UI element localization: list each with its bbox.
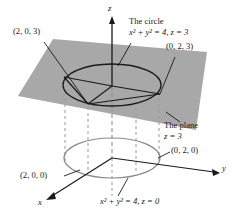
leader-2-0-0 [64,170,80,176]
plane-equation-label: z = 3 [164,131,182,141]
point-label-0-2-0: (0, 2, 0) [171,145,198,155]
y-axis-arrowhead [212,169,220,176]
leader-bottom-equation [118,178,128,196]
x-axis-arrowhead [46,192,56,200]
y-axis [112,158,214,172]
point-label-0-2-3: (0, 2, 3) [166,41,193,51]
y-axis-label: y [222,163,226,173]
point-label-2-0-0: (2, 0, 0) [20,170,47,180]
point-label-2-0-3: (2, 0, 3) [13,26,40,36]
circle-title-label: The circle [129,16,164,26]
x-axis-label: x [38,197,42,207]
figure-3d-circle-plane: z y x The circle x² + y² = 4, z = 3 The … [0,0,238,220]
z-axis-arrowhead [109,16,115,24]
x-axis [52,158,112,196]
plane-title-label: The plane [164,120,198,130]
circle-equation-bottom-label: x² + y² = 4, z = 0 [100,196,159,206]
z-axis-label: z [108,3,111,13]
circle-equation-top-label: x² + y² = 4, z = 3 [129,27,188,37]
